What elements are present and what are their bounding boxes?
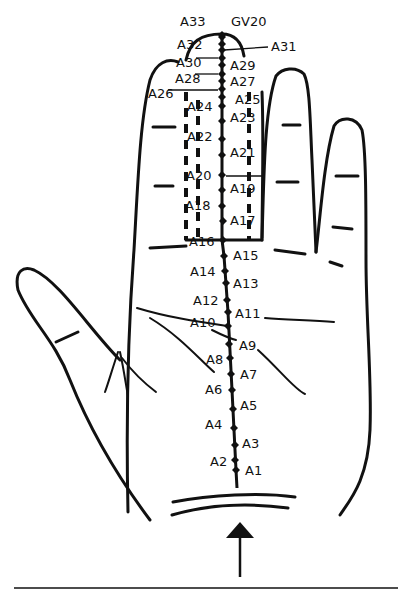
point-label-a8: A8 <box>206 352 223 367</box>
point-label-a17: A17 <box>230 213 255 228</box>
acupoint-a17 <box>219 217 227 225</box>
acupoint-a20 <box>218 171 226 179</box>
acupoint-a8 <box>226 354 234 362</box>
acupoint-a12 <box>223 296 231 304</box>
point-label-a19: A19 <box>230 181 255 196</box>
point-label-a23: A23 <box>230 110 255 125</box>
acupoint-a4 <box>230 424 238 432</box>
acupoint-a9 <box>225 340 233 348</box>
acupoint-a30 <box>218 54 226 62</box>
point-label-a20: A20 <box>186 168 211 183</box>
little-finger-outline <box>316 119 370 515</box>
acupoint-a32 <box>218 40 226 48</box>
acupoint-a23 <box>218 117 226 125</box>
point-label-a10: A10 <box>190 315 215 330</box>
acupoint-a11 <box>224 308 232 316</box>
acupoint-a25 <box>218 93 226 101</box>
point-label-a6: A6 <box>205 382 222 397</box>
point-label-a33: A33 <box>180 14 205 29</box>
acupoint-a6 <box>228 386 236 394</box>
point-label-a27: A27 <box>230 74 255 89</box>
point-label-a1: A1 <box>245 463 262 478</box>
acupoint-a2 <box>231 456 239 464</box>
point-label-a18: A18 <box>185 198 210 213</box>
acupoint-a26 <box>218 85 226 93</box>
point-label-a4: A4 <box>205 417 222 432</box>
point-label-a29: A29 <box>230 58 255 73</box>
acupoint-a1 <box>232 466 240 474</box>
point-label-a5: A5 <box>240 398 257 413</box>
point-label-a21: A21 <box>230 145 255 160</box>
acupoint-a24 <box>218 102 226 110</box>
acupoint-a10 <box>224 322 232 330</box>
hand-acupuncture-diagram: A33GV20A32A31A30A29A28A27A26A25A24A23A22… <box>0 0 401 594</box>
point-label-a9: A9 <box>239 338 256 353</box>
acupoint-a29 <box>218 61 226 69</box>
acupoint-a14 <box>221 267 229 275</box>
point-label-a32: A32 <box>177 37 202 52</box>
acupoint-a19 <box>218 186 226 194</box>
point-label-a28: A28 <box>175 71 200 86</box>
acupoint-a13 <box>222 279 230 287</box>
point-label-a13: A13 <box>233 276 258 291</box>
acupoint-a18 <box>218 202 226 210</box>
arrow-up-icon <box>226 522 254 577</box>
point-label-a25: A25 <box>235 92 260 107</box>
acupoint-a15 <box>220 252 228 260</box>
acupoint-a22 <box>218 135 226 143</box>
wrist-creases <box>172 495 295 515</box>
point-label-a31: A31 <box>271 39 296 54</box>
point-label-a7: A7 <box>240 367 257 382</box>
point-label-gv20: GV20 <box>231 14 267 29</box>
point-label-a14: A14 <box>190 264 215 279</box>
point-label-a11: A11 <box>235 306 260 321</box>
point-label-a26: A26 <box>148 86 173 101</box>
point-label-a15: A15 <box>233 248 258 263</box>
point-label-a22: A22 <box>187 129 212 144</box>
acupoint-a7 <box>227 370 235 378</box>
point-label-a12: A12 <box>193 293 218 308</box>
acupoint-a28 <box>218 70 226 78</box>
acupoint-a16 <box>219 236 227 244</box>
acupoint-a21 <box>218 151 226 159</box>
point-label-a2: A2 <box>210 454 227 469</box>
point-label-a24: A24 <box>187 99 212 114</box>
point-label-a30: A30 <box>176 55 201 70</box>
point-label-a3: A3 <box>242 436 259 451</box>
acupoint-a5 <box>229 405 237 413</box>
point-label-a16: A16 <box>189 234 214 249</box>
acupoint-a27 <box>218 77 226 85</box>
ring-finger-outline <box>262 69 316 252</box>
acupoint-a3 <box>231 441 239 449</box>
